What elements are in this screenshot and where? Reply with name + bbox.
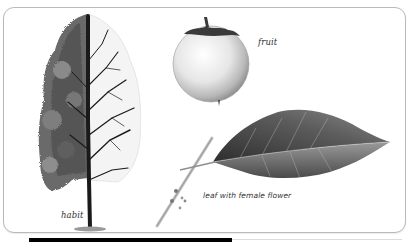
label-habit: habit [61,210,84,220]
label-leaf-with-female-flower: leaf with female flower [203,191,291,200]
tree-icon [39,14,141,232]
leaf-icon [157,110,390,226]
bottom-divider [232,239,402,240]
label-fruit: fruit [258,37,277,47]
fruit-icon [173,17,249,106]
botanical-illustration [0,0,410,242]
bottom-black-bar [29,238,232,242]
